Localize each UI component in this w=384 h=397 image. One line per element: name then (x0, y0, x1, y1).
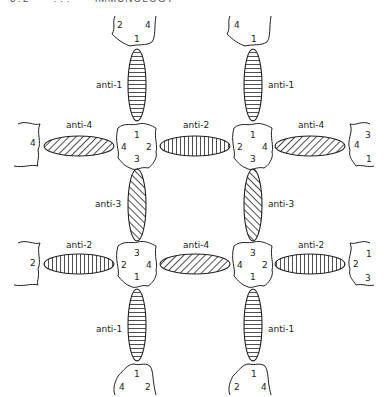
frag-rl-c: 3 (365, 273, 371, 283)
frag-rl-b: 2 (353, 259, 359, 269)
node-br-top: 3 (250, 248, 256, 258)
antibody-anti4-lower-center (160, 254, 230, 274)
antigen-antibody-lattice-diagram: anti-1 anti-1 anti-4 anti-2 anti-4 anti-… (0, 0, 384, 397)
label-anti2-lower-left: anti-2 (66, 240, 92, 250)
node-br-left: 4 (237, 260, 243, 270)
frag-rm-b: 4 (354, 140, 360, 150)
frag-tr-c: 1 (251, 34, 257, 44)
frag-rm-c: 1 (366, 154, 372, 164)
antibody-anti1-bottom-left (128, 289, 146, 361)
antibody-anti3-center-left (128, 169, 146, 241)
node-br-right: 2 (262, 260, 268, 270)
node-bl-right: 4 (146, 260, 152, 270)
frag-tl-a: 2 (117, 20, 123, 30)
antibody-anti1-top-right (244, 49, 262, 121)
frag-br-c: 4 (261, 382, 267, 392)
node-bl-top: 3 (134, 248, 140, 258)
frag-lm-a: 4 (30, 138, 36, 148)
label-anti4-mid-right: anti-4 (298, 120, 324, 130)
label-anti1-bottom-left: anti-1 (96, 324, 122, 334)
node-tl-left: 4 (121, 142, 127, 152)
label-anti2-lower-right: anti-2 (298, 240, 324, 250)
node-br-bottom: 1 (250, 272, 256, 282)
antigen-fragment-left-mid (14, 123, 40, 167)
node-bl-left: 2 (121, 260, 127, 270)
node-tr-right: 4 (262, 142, 268, 152)
label-anti3-center-left: anti-3 (95, 199, 121, 209)
node-tl-top: 1 (134, 130, 140, 140)
frag-bl-a: 1 (134, 369, 140, 379)
frag-tl-c: 1 (134, 34, 140, 44)
node-tl-right: 2 (146, 142, 152, 152)
antibody-anti1-top-left (128, 49, 146, 121)
antibody-anti2-lower-right (275, 254, 345, 274)
frag-tl-b: 4 (145, 20, 151, 30)
node-bl-bottom: 1 (134, 272, 140, 282)
label-anti1-bottom-right: anti-1 (268, 324, 294, 334)
antibody-anti4-mid-right (275, 136, 345, 156)
frag-br-b: 2 (234, 382, 240, 392)
antigen-fragment-left-low (14, 242, 40, 286)
antibody-anti2-lower-left (44, 254, 114, 274)
antibody-anti1-bottom-right (244, 289, 262, 361)
antibody-anti3-center-right (244, 169, 262, 241)
antibody-anti4-mid-left (44, 136, 114, 156)
frag-rm-a: 3 (365, 130, 371, 140)
node-tl-bottom: 3 (134, 154, 140, 164)
label-anti4-lower-center: anti-4 (183, 240, 209, 250)
frag-rl-a: 1 (366, 249, 372, 259)
frag-ll-a: 2 (30, 258, 36, 268)
frag-bl-c: 2 (145, 382, 151, 392)
label-anti4-mid-left: anti-4 (66, 120, 92, 130)
node-tr-bottom: 3 (250, 154, 256, 164)
frag-br-a: 1 (251, 369, 257, 379)
node-tr-top: 1 (250, 130, 256, 140)
label-anti1-top-left: anti-1 (96, 80, 122, 90)
frag-tr-a: 4 (234, 20, 240, 30)
node-tr-left: 2 (237, 142, 243, 152)
frag-bl-b: 4 (119, 382, 125, 392)
label-anti2-mid-center: anti-2 (183, 120, 209, 130)
antibody-anti2-mid-center (160, 136, 230, 156)
label-anti1-top-right: anti-1 (268, 80, 294, 90)
label-anti3-center-right: anti-3 (268, 199, 294, 209)
